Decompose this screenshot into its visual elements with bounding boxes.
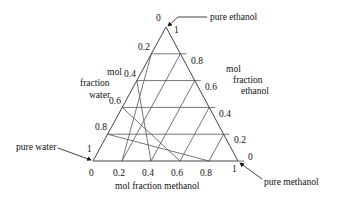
svg-text:0.6: 0.6 [205,82,217,92]
svg-text:0.2: 0.2 [113,168,125,178]
pure-water-callout: pure water [16,142,91,160]
svg-text:0.4: 0.4 [219,109,231,119]
ethanol-axis-title: mol fraction ethanol [226,64,269,96]
svg-text:fraction: fraction [80,78,110,88]
arrow-icon [240,163,262,179]
svg-text:1: 1 [174,25,179,35]
svg-text:fraction: fraction [233,75,263,85]
svg-text:pure ethanol: pure ethanol [210,12,258,22]
svg-text:pure water: pure water [16,142,57,152]
svg-text:0.2: 0.2 [234,135,246,145]
pure-methanol-callout: pure methanol [240,163,319,187]
svg-text:0.6: 0.6 [171,168,183,178]
methanol-axis-title: mol fraction methanol [115,181,200,191]
svg-text:pure methanol: pure methanol [264,177,319,187]
svg-text:mol: mol [107,67,122,77]
svg-text:0.6: 0.6 [109,96,121,106]
svg-text:1: 1 [87,144,92,154]
svg-text:0.4: 0.4 [124,69,136,79]
svg-text:0.8: 0.8 [95,122,107,132]
svg-text:ethanol: ethanol [241,86,269,96]
svg-text:0.2: 0.2 [138,42,150,52]
svg-text:water: water [89,90,111,100]
svg-text:0.8: 0.8 [191,56,203,66]
methanol-axis-ticks: 0 0.2 0.4 0.6 0.8 1 [89,164,237,178]
svg-text:mol: mol [226,64,241,74]
svg-text:0: 0 [89,168,94,178]
svg-text:1: 1 [232,164,237,174]
svg-text:0: 0 [248,152,253,162]
svg-text:0.4: 0.4 [142,168,154,178]
grid-line [209,134,224,161]
ternary-diagram: 0 0.2 0.4 0.6 0.8 1 1 0.8 0.6 0.4 0.2 0 … [0,0,338,200]
grid-line [151,81,195,161]
triangle-outline [93,27,238,161]
svg-text:0: 0 [156,13,161,23]
pure-ethanol-callout: pure ethanol [168,12,258,26]
svg-text:0.8: 0.8 [200,168,212,178]
grid-line [137,81,151,161]
